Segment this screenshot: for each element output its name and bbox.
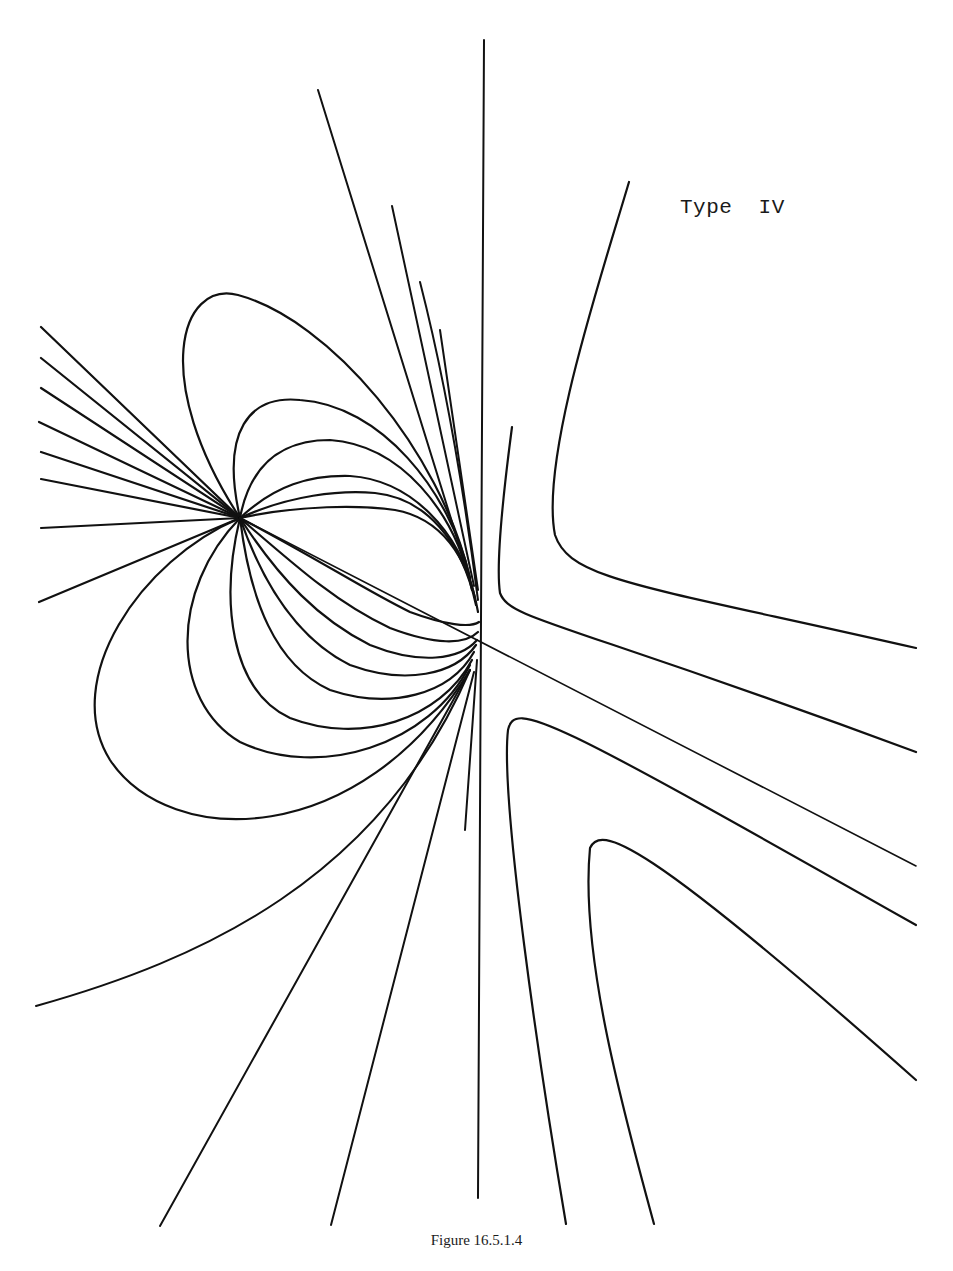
vertical-axis-line [478, 40, 484, 1198]
lower-loops [95, 518, 479, 819]
upper-rays-to-node [318, 90, 478, 600]
curve [240, 518, 476, 675]
curve [240, 518, 916, 866]
curve [420, 282, 478, 600]
curve [553, 182, 916, 648]
curve [478, 40, 484, 1198]
curve [331, 672, 474, 1225]
phase-portrait-diagram [0, 0, 953, 1271]
curve [160, 670, 470, 1226]
curve [188, 518, 471, 757]
curve [95, 518, 470, 819]
curve [240, 518, 477, 658]
curve [41, 327, 240, 518]
curve [41, 518, 240, 528]
curve [36, 670, 470, 1006]
diagonal-separatrix [240, 518, 916, 866]
curve [499, 427, 916, 752]
figure-caption: Figure 16.5.1.4 [0, 1232, 953, 1249]
curve [507, 718, 916, 1224]
right-hyperbolas [499, 182, 916, 1224]
curve [234, 400, 470, 578]
type-label: Type IV [680, 196, 785, 219]
curve [392, 206, 474, 586]
